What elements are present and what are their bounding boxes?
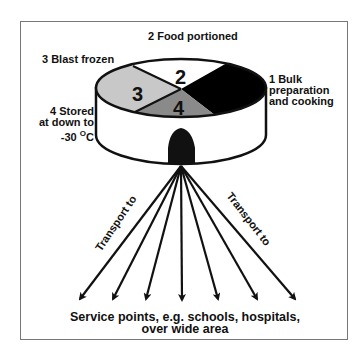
segment-number-4: 4 — [173, 97, 185, 119]
segment-number-3: 3 — [132, 83, 143, 105]
destination-label: Service points, e.g. schools, hospitals,… — [30, 311, 340, 335]
label-food-portioned: 2 Food portioned — [148, 31, 238, 42]
transport-label-right: Transport to — [224, 190, 273, 248]
label-stored: 4 Stored at down to -30 OC — [36, 106, 94, 143]
segment-number-2: 2 — [175, 66, 186, 88]
label-bulk-preparation: 1 Bulk preparation and cooking — [269, 74, 334, 107]
transport-label-left: Transport to — [93, 193, 139, 253]
label-blast-frozen: 3 Blast frozen — [42, 54, 114, 65]
